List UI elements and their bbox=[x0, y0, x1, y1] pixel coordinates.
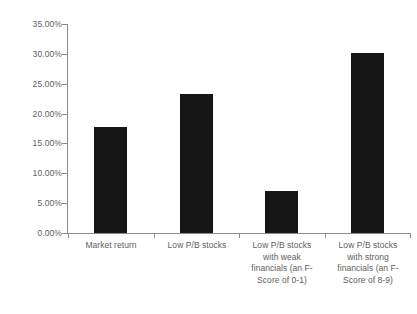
y-tick-label: 30.00% bbox=[12, 49, 62, 58]
x-tick-mark bbox=[325, 233, 326, 238]
x-tick-mark bbox=[154, 233, 155, 238]
x-category-label-line: Score of 8-9) bbox=[325, 275, 411, 287]
plot-area bbox=[68, 24, 410, 233]
x-category-label-line: financials (an F- bbox=[325, 263, 411, 275]
x-tick-mark bbox=[410, 233, 411, 238]
x-tick-mark bbox=[239, 233, 240, 238]
bar bbox=[180, 94, 213, 233]
y-tick-mark bbox=[62, 84, 67, 85]
y-tick-mark bbox=[62, 143, 67, 144]
bar bbox=[351, 53, 384, 233]
y-tick-mark bbox=[62, 173, 67, 174]
y-tick-mark bbox=[62, 203, 67, 204]
y-tick-mark bbox=[62, 24, 67, 25]
x-category-label-line: Low P/B stocks bbox=[325, 240, 411, 252]
y-tick-label: 15.00% bbox=[12, 139, 62, 148]
x-category-label-line: Market return bbox=[68, 240, 154, 252]
x-tick-mark bbox=[68, 233, 69, 238]
y-tick-mark bbox=[62, 114, 67, 115]
y-tick-label: 5.00% bbox=[12, 199, 62, 208]
x-category-label: Low P/B stocks bbox=[154, 240, 240, 252]
x-axis-line bbox=[62, 233, 410, 234]
x-category-label: Low P/B stockswith strongfinancials (an … bbox=[325, 240, 411, 286]
x-category-label-line: Low P/B stocks bbox=[239, 240, 325, 252]
bar bbox=[94, 127, 127, 233]
bar-chart: 35.00% 30.00% 25.00% 20.00% 15.00% 10.00… bbox=[0, 0, 417, 314]
y-tick-label: 0.00% bbox=[12, 229, 62, 238]
x-category-label-line: Score of 0-1) bbox=[239, 275, 325, 287]
y-tick-label: 35.00% bbox=[12, 20, 62, 29]
y-axis-tick-labels: 35.00% 30.00% 25.00% 20.00% 15.00% 10.00… bbox=[12, 0, 62, 314]
y-tick-label: 25.00% bbox=[12, 79, 62, 88]
y-tick-mark bbox=[62, 54, 67, 55]
x-axis-category-labels: Market returnLow P/B stocksLow P/B stock… bbox=[68, 240, 417, 314]
bar bbox=[265, 191, 298, 233]
x-category-label-line: financials (an F- bbox=[239, 263, 325, 275]
x-category-label: Low P/B stockswith weakfinancials (an F-… bbox=[239, 240, 325, 286]
x-category-label-line: Low P/B stocks bbox=[154, 240, 240, 252]
x-category-label: Market return bbox=[68, 240, 154, 252]
y-tick-label: 20.00% bbox=[12, 109, 62, 118]
x-category-label-line: with strong bbox=[325, 252, 411, 264]
x-category-label-line: with weak bbox=[239, 252, 325, 264]
y-tick-label: 10.00% bbox=[12, 169, 62, 178]
